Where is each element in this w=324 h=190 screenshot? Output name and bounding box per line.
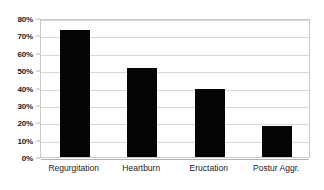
- y-tick-label: 70%: [18, 32, 33, 41]
- y-tick-label: 20%: [18, 119, 33, 128]
- plot-area: [40, 19, 310, 158]
- x-tick-label: Eructation: [190, 163, 228, 173]
- y-tick-label: 50%: [18, 67, 33, 76]
- bar: [262, 126, 292, 157]
- y-tick-label: 40%: [18, 84, 33, 93]
- bar: [127, 68, 157, 157]
- y-tick-label: 80%: [18, 15, 33, 24]
- y-tick-label: 0%: [22, 154, 33, 163]
- bar-chart: 80%70%60%50%40%30%20%10%0% Regurgitation…: [0, 0, 324, 190]
- y-axis: 80%70%60%50%40%30%20%10%0%: [0, 0, 40, 190]
- gridline: [41, 159, 309, 160]
- x-tick-label: Heartburn: [122, 163, 160, 173]
- gridline: [41, 20, 309, 21]
- bar: [60, 30, 90, 157]
- x-tick-label: Regurgitation: [48, 163, 99, 173]
- y-tick-label: 30%: [18, 101, 33, 110]
- y-tick-label: 60%: [18, 49, 33, 58]
- x-tick-label: Postur Aggr.: [253, 163, 299, 173]
- x-axis: RegurgitationHeartburnEructationPostur A…: [40, 163, 310, 183]
- y-tick-label: 10%: [18, 136, 33, 145]
- bar: [195, 89, 225, 157]
